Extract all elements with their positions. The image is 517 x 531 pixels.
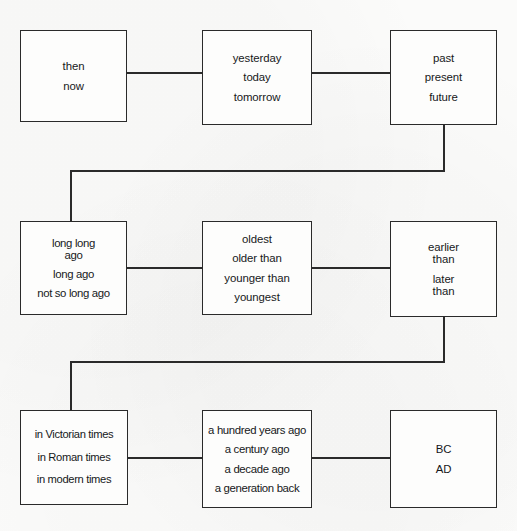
connector-node7-node8	[126, 457, 204, 459]
node-long-long-ago[interactable]: long long ago long ago not so long ago	[20, 221, 127, 315]
node-4-line-1: long long	[52, 237, 95, 249]
node-1-line-2: now	[63, 80, 84, 92]
connector-node1-node2	[126, 72, 204, 74]
connector-node3-node4-segment-into	[70, 170, 72, 221]
node-earlier-later-than[interactable]: earlier than later than	[390, 221, 497, 317]
node-historical-times[interactable]: in Victorian times in Roman times in mod…	[20, 410, 128, 505]
node-2-line-2: today	[243, 71, 270, 83]
node-bc-ad[interactable]: BC AD	[390, 410, 497, 508]
node-8-line-3: a decade ago	[225, 463, 290, 475]
node-2-line-1: yesterday	[233, 52, 281, 64]
node-9-line-2: AD	[436, 463, 452, 475]
connector-node3-node4-segment-across	[70, 170, 445, 172]
node-6-line-3: later	[433, 273, 455, 285]
time-vocabulary-diagram: then now yesterday today tomorrow past p…	[0, 0, 517, 531]
node-3-line-3: future	[429, 91, 458, 103]
node-then-now[interactable]: then now	[20, 30, 127, 122]
node-5-line-2: older than	[232, 252, 282, 264]
node-8-line-4: a generation back	[215, 482, 300, 494]
node-2-line-3: tomorrow	[234, 91, 281, 103]
node-1-line-1: then	[63, 60, 85, 72]
connector-node2-node3	[311, 72, 391, 74]
connector-node6-node7-segment-down	[443, 316, 445, 363]
node-oldest-youngest[interactable]: oldest older than younger than youngest	[202, 221, 312, 315]
node-5-line-3: younger than	[224, 272, 289, 284]
connector-node4-node5	[126, 267, 204, 269]
connector-node6-node7-segment-across	[70, 361, 445, 363]
node-past-present-future[interactable]: past present future	[390, 30, 497, 125]
connector-node3-node4-segment-down	[443, 125, 445, 172]
node-6-line-2: than	[433, 253, 455, 265]
node-3-line-1: past	[433, 52, 454, 64]
connector-node8-node9	[311, 457, 391, 459]
node-6-line-4: than	[433, 285, 455, 297]
node-6-line-1: earlier	[428, 241, 459, 253]
node-5-line-1: oldest	[242, 233, 272, 245]
connector-node6-node7-segment-into	[70, 361, 72, 411]
node-7-line-2: in Roman times	[38, 452, 111, 464]
node-4-line-3: long ago	[53, 268, 94, 280]
node-3-line-2: present	[425, 71, 462, 83]
node-yesterday-today-tomorrow[interactable]: yesterday today tomorrow	[202, 30, 312, 125]
node-7-line-1: in Victorian times	[35, 429, 114, 441]
connector-node5-node6	[311, 267, 391, 269]
node-8-line-1: a hundred years ago	[208, 424, 306, 436]
node-5-line-4: youngest	[234, 291, 279, 303]
node-4-line-4: not so long ago	[37, 287, 110, 299]
node-relative-time-spans[interactable]: a hundred years ago a century ago a deca…	[202, 410, 312, 508]
node-8-line-2: a century ago	[225, 443, 289, 455]
node-9-line-1: BC	[436, 443, 452, 455]
node-7-line-3: in modern times	[37, 474, 111, 486]
node-4-line-2: ago	[65, 249, 83, 261]
